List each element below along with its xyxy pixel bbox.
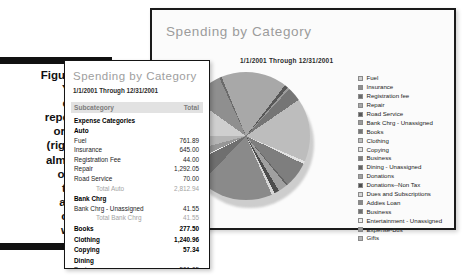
report-row: Business501.05 (71, 265, 203, 269)
report-window[interactable]: Spending by Category 1/1/2001 Through 12… (64, 60, 210, 269)
report-row: Registration Fee44.00 (71, 155, 203, 165)
report-row-value: 645.00 (179, 145, 199, 155)
report-row: Repair1,292.05 (71, 164, 203, 174)
report-row-label: Insurance (74, 145, 102, 155)
report-row-label: Books (74, 224, 94, 234)
chart-date-range: 1/1/2001 Through 12/31/2001 (240, 57, 333, 64)
legend-item: Repair (358, 101, 454, 110)
legend-swatch-icon (358, 200, 363, 205)
legend-swatch-icon (358, 183, 363, 188)
legend-item: Donations (358, 172, 454, 181)
chart-legend: FuelInsuranceRegistration feeRepairRoad … (358, 74, 454, 243)
legend-item: Dining - Unassigned (358, 163, 454, 172)
report-row: Road Service70.00 (71, 174, 203, 184)
legend-item: Business (358, 154, 454, 163)
report-row-value: 41.55 (183, 213, 199, 223)
legend-item-label: Clothing (367, 137, 389, 145)
legend-item-label: Road Service (367, 110, 404, 118)
legend-item-label: Bank Chrg - Unassigned (367, 119, 433, 127)
column-header-total: Total (184, 104, 199, 111)
legend-item: Registration fee (358, 92, 454, 101)
legend-swatch-icon (358, 147, 363, 152)
legend-swatch-icon (358, 236, 363, 241)
legend-item: Books (358, 127, 454, 136)
report-row: Clothing1,240.96 (71, 234, 203, 245)
report-row-label: Auto (74, 126, 89, 136)
legend-item-label: Dues and Subscriptions (367, 190, 431, 198)
legend-item-label: Business (367, 154, 392, 162)
legend-item-label: Business (367, 208, 392, 216)
report-date-range: 1/1/2001 Through 12/31/2001 (73, 87, 209, 94)
report-column-headers: Subcategory Total (71, 102, 203, 113)
report-row-value: 501.05 (179, 265, 199, 269)
report-row-label: Repair (74, 164, 93, 174)
chart-window-title: Spending by Category (166, 24, 312, 39)
report-row-value: 1,240.96 (174, 235, 199, 245)
legend-swatch-icon (358, 76, 363, 81)
report-row-label: Bank Chrg - Unassigned (74, 204, 144, 214)
legend-item: Entertainment - Unassigned (358, 216, 454, 225)
report-row-label: Business (74, 265, 100, 269)
legend-swatch-icon (358, 138, 363, 143)
report-row: Bank Chrg (71, 193, 203, 204)
legend-swatch-icon (358, 218, 363, 223)
report-row-value: 44.00 (183, 155, 199, 165)
legend-swatch-icon (358, 174, 363, 179)
legend-item: Donations--Non Tax (358, 181, 454, 190)
report-row-label: Road Service (74, 174, 112, 184)
legend-item-label: Registration fee (367, 92, 410, 100)
report-row-label: Dining (74, 256, 94, 266)
report-row: Dining (71, 255, 203, 266)
report-row-value: 2,812.94 (174, 184, 199, 194)
legend-item-label: Dining - Unassigned (367, 163, 422, 171)
report-row-value: 70.00 (183, 174, 199, 184)
legend-item: Business (358, 207, 454, 216)
legend-swatch-icon (358, 209, 363, 214)
legend-item-label: Gifts (367, 234, 380, 242)
legend-item-label: Fuel (367, 74, 379, 82)
legend-item: Copying (358, 145, 454, 154)
report-row-value: 1,292.05 (174, 164, 199, 174)
column-header-subcategory: Subcategory (74, 104, 114, 111)
report-row-label: Bank Chrg (74, 194, 106, 204)
report-section-header: Expense Categories (71, 113, 203, 125)
legend-item-label: Copying (367, 146, 389, 154)
legend-swatch-icon (358, 165, 363, 170)
report-row: Books277.50 (71, 223, 203, 234)
report-row: Fuel761.89 (71, 136, 203, 146)
report-row-value: 41.55 (183, 204, 199, 214)
report-row: Total Bank Chrg41.55 (71, 213, 203, 223)
legend-item-label: Expense-Bus (367, 226, 403, 234)
legend-item: Road Service (358, 110, 454, 119)
legend-item-label: Entertainment - Unassigned (367, 217, 443, 225)
report-window-title: Spending by Category (73, 70, 209, 82)
report-row: Auto (71, 125, 203, 136)
legend-item-label: Donations--Non Tax (367, 181, 421, 189)
legend-swatch-icon (358, 94, 363, 99)
report-row: Total Auto2,812.94 (71, 184, 203, 194)
legend-item: Expense-Bus (358, 225, 454, 234)
report-row: Insurance645.00 (71, 145, 203, 155)
report-row-label: Clothing (74, 235, 100, 245)
report-row-label: Copying (74, 245, 100, 255)
legend-item-label: Insurance (367, 83, 394, 91)
report-row-label: Fuel (74, 136, 86, 146)
legend-item: Clothing (358, 136, 454, 145)
legend-swatch-icon (358, 129, 363, 134)
legend-item: Dues and Subscriptions (358, 190, 454, 199)
report-row-value: 761.89 (179, 136, 199, 146)
report-row-label: Total Bank Chrg (74, 213, 141, 223)
report-row: Bank Chrg - Unassigned41.55 (71, 204, 203, 214)
legend-item-label: Repair (367, 101, 385, 109)
report-row: Copying57.34 (71, 244, 203, 255)
legend-item: Fuel (358, 74, 454, 83)
legend-item: Insurance (358, 83, 454, 92)
report-row-label: Total Auto (74, 184, 124, 194)
legend-swatch-icon (358, 192, 363, 197)
legend-item-label: Donations (367, 172, 394, 180)
legend-item: Bank Chrg - Unassigned (358, 118, 454, 127)
legend-swatch-icon (358, 156, 363, 161)
report-row-value: 277.50 (179, 224, 199, 234)
legend-swatch-icon (358, 227, 363, 232)
report-rows: Expense Categories AutoFuel761.89Insuran… (71, 113, 203, 269)
